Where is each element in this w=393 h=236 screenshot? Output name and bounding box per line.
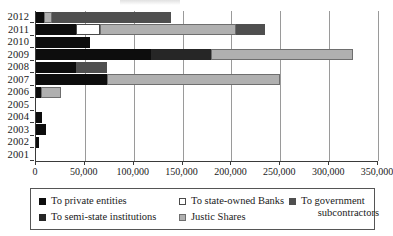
- legend-label: To private entities: [51, 195, 127, 207]
- top-edge-artifact: [120, 0, 180, 5]
- legend-swatch-justice-icon: [179, 214, 186, 221]
- bar-segment-justice: [211, 49, 353, 60]
- bar-row: [36, 137, 39, 148]
- x-axis-tick: [328, 161, 329, 165]
- x-axis-label: 200,000: [214, 166, 247, 178]
- bar-segment-gov: [76, 62, 107, 73]
- bar-row: [36, 49, 353, 60]
- x-axis-tick: [84, 161, 85, 165]
- y-axis-label: 2002: [0, 136, 29, 147]
- legend-label: To semi-state institutions: [51, 211, 156, 223]
- bar-segment-private: [36, 124, 46, 135]
- x-axis-label: 100,000: [116, 166, 149, 178]
- bar-segment-private: [36, 137, 39, 148]
- y-axis-tick: [30, 160, 34, 161]
- bar-segment-private: [36, 12, 44, 23]
- bar-segment-justice: [41, 87, 62, 98]
- gridline: [329, 11, 330, 161]
- bar-row: [36, 74, 280, 85]
- legend-label-line2: subcontractors: [301, 207, 379, 219]
- y-axis-tick: [30, 60, 34, 61]
- bar-segment-justice: [107, 74, 280, 85]
- x-axis-tick: [377, 161, 378, 165]
- x-axis-label: 250,000: [263, 166, 296, 178]
- y-axis-label: 2007: [0, 74, 29, 85]
- legend-item-justice[interactable]: Justic Shares: [179, 211, 246, 223]
- y-axis-tick: [30, 97, 34, 98]
- legend-label: To governmentsubcontractors: [301, 195, 379, 219]
- y-axis-tick: [30, 147, 34, 148]
- bar-row: [36, 124, 46, 135]
- y-axis-label: 2008: [0, 61, 29, 72]
- gridline: [280, 11, 281, 161]
- legend: To private entitiesTo state-owned BanksT…: [30, 188, 375, 230]
- x-axis-tick: [35, 161, 36, 165]
- y-axis-tick: [30, 72, 34, 73]
- x-axis-tick: [182, 161, 183, 165]
- legend-swatch-private-icon: [39, 198, 46, 205]
- y-axis-label: 2012: [0, 11, 29, 22]
- y-axis-tick: [30, 85, 34, 86]
- bar-row: [36, 24, 265, 35]
- gridline: [378, 11, 379, 161]
- bar-row: [36, 12, 171, 23]
- y-axis-tick: [30, 122, 34, 123]
- y-axis-label: 2003: [0, 124, 29, 135]
- bar-segment-private: [36, 74, 107, 85]
- legend-item-banks[interactable]: To state-owned Banks: [179, 195, 284, 207]
- bar-segment-private: [36, 24, 76, 35]
- y-axis-tick: [30, 47, 34, 48]
- x-axis-label: 0: [33, 166, 38, 178]
- y-axis-tick: [30, 22, 34, 23]
- y-axis-label: 2005: [0, 99, 29, 110]
- legend-label: To state-owned Banks: [191, 195, 284, 207]
- y-axis-tick: [30, 35, 34, 36]
- bar-segment-semistate: [151, 49, 211, 60]
- legend-swatch-gov-icon: [289, 198, 296, 205]
- legend-swatch-semistate-icon: [39, 214, 46, 221]
- bar-segment-justice: [44, 12, 52, 23]
- y-axis-label: 2011: [0, 24, 29, 35]
- y-axis-tick: [30, 135, 34, 136]
- bar-segment-justice: [100, 24, 237, 35]
- bar-row: [36, 62, 107, 73]
- bar-segment-gov: [236, 24, 264, 35]
- bar-row: [36, 87, 61, 98]
- legend-item-gov[interactable]: To governmentsubcontractors: [289, 195, 379, 219]
- x-axis-label: 50,000: [70, 166, 98, 178]
- y-axis-label: 2001: [0, 149, 29, 160]
- y-axis-label: 2006: [0, 86, 29, 97]
- x-axis-tick: [230, 161, 231, 165]
- bar-segment-private: [36, 49, 151, 60]
- x-axis-tick: [133, 161, 134, 165]
- legend-inner: To private entitiesTo state-owned BanksT…: [31, 189, 374, 229]
- legend-item-semistate[interactable]: To semi-state institutions: [39, 211, 156, 223]
- y-axis-label: 2004: [0, 111, 29, 122]
- y-axis-label: 2010: [0, 36, 29, 47]
- y-axis: 2012201120102009200820072006200520042003…: [0, 11, 33, 161]
- x-axis-label: 300,000: [312, 166, 345, 178]
- y-axis-label: 2009: [0, 49, 29, 60]
- x-axis-label: 350,000: [361, 166, 393, 178]
- legend-label: Justic Shares: [191, 211, 246, 223]
- x-axis-tick: [279, 161, 280, 165]
- bar-segment-private: [36, 112, 42, 123]
- legend-swatch-banks-icon: [179, 198, 186, 205]
- x-axis-line: [35, 161, 377, 162]
- bar-segment-banks: [76, 24, 99, 35]
- x-axis-label: 150,000: [165, 166, 198, 178]
- y-axis-tick: [30, 110, 34, 111]
- bar-row: [36, 37, 90, 48]
- bar-segment-private: [36, 62, 76, 73]
- legend-item-private[interactable]: To private entities: [39, 195, 127, 207]
- bar-segment-gov: [52, 12, 171, 23]
- bar-row: [36, 112, 42, 123]
- plot-area: [35, 11, 378, 161]
- bar-segment-private: [36, 37, 90, 48]
